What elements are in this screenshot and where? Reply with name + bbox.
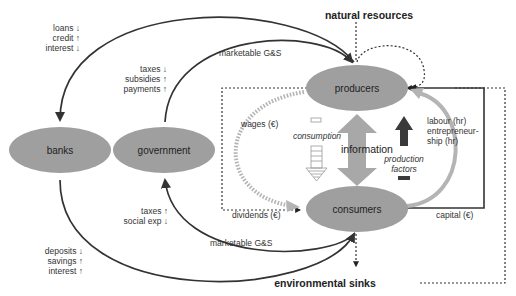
government-bottom-labels: taxes ↑ social exp ↓: [124, 206, 168, 226]
svg-text:payments ↑: payments ↑: [124, 84, 167, 94]
labour-arc: [407, 88, 456, 206]
svg-text:entrepreneur-: entrepreneur-: [427, 126, 479, 136]
svg-text:subsidies ↑: subsidies ↑: [125, 74, 167, 84]
node-government[interactable]: government: [113, 127, 215, 173]
government-label: government: [138, 145, 191, 156]
marketable-gs-bottom-label: marketable G&S: [210, 238, 273, 248]
capital-flow-path: [407, 88, 484, 208]
svg-text:interest ↑: interest ↑: [49, 266, 84, 276]
svg-text:labour (hr): labour (hr): [427, 116, 466, 126]
wages-label: wages (€): [240, 119, 278, 129]
svg-text:loans ↓: loans ↓: [53, 23, 80, 33]
banks-label: banks: [47, 145, 74, 156]
circular-flow-diagram: producers consumers banks government inf…: [0, 0, 516, 296]
svg-text:credit ↑: credit ↑: [53, 33, 80, 43]
natural-resources-label: natural resources: [325, 9, 413, 21]
consumption-arrow-icon: [306, 118, 327, 181]
wages-arc: [236, 92, 304, 212]
banks-bottom-labels: deposits ↓ savings ↑ interest ↑: [45, 246, 83, 276]
producers-label: producers: [335, 83, 379, 94]
dividends-label: dividends (€): [232, 210, 281, 220]
labour-labels: labour (hr) entrepreneur- ship (hr): [427, 116, 479, 146]
svg-text:interest ↓: interest ↓: [46, 43, 81, 53]
production-factors-label-1: production: [383, 154, 424, 164]
consumers-label: consumers: [333, 204, 382, 215]
production-factors-label-2: factors: [391, 164, 417, 174]
svg-text:taxes ↑: taxes ↑: [141, 206, 168, 216]
environmental-sinks-label: environmental sinks: [274, 277, 376, 289]
svg-text:taxes ↓: taxes ↓: [140, 64, 167, 74]
capital-label: capital (€): [436, 210, 473, 220]
marketable-gs-top-label: marketable G&S: [219, 48, 282, 58]
consumption-label: consumption: [293, 131, 341, 141]
banks-top-labels: loans ↓ credit ↑ interest ↓: [46, 23, 81, 53]
node-producers[interactable]: producers: [306, 65, 408, 111]
svg-text:ship (hr): ship (hr): [427, 136, 458, 146]
node-banks[interactable]: banks: [9, 127, 111, 173]
svg-text:social exp ↓: social exp ↓: [124, 216, 168, 226]
svg-text:deposits ↓: deposits ↓: [45, 246, 83, 256]
deposits-flow-arrow: [60, 180, 354, 281]
svg-text:savings ↑: savings ↑: [48, 256, 83, 266]
node-consumers[interactable]: consumers: [306, 186, 408, 232]
loans-flow-arrow: [60, 17, 354, 120]
government-top-labels: taxes ↓ subsidies ↑ payments ↑: [124, 64, 167, 94]
